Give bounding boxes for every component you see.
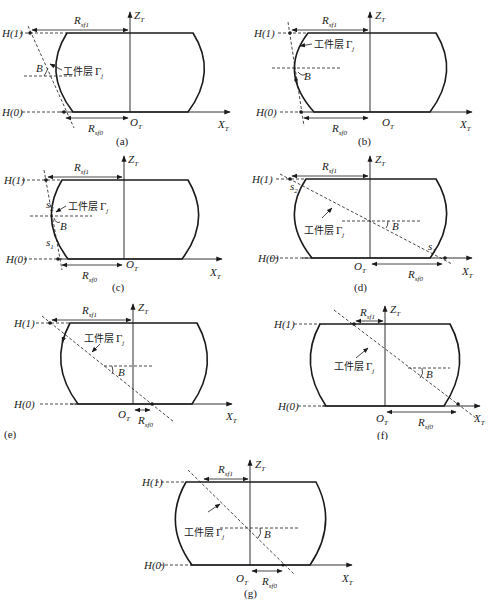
svg-text:Rsf0: Rsf0 bbox=[417, 416, 433, 431]
svg-text:Rsf1: Rsf1 bbox=[217, 463, 233, 478]
svg-text:OT: OT bbox=[126, 258, 139, 273]
svg-text:H(0): H(0) bbox=[13, 398, 35, 411]
svg-text:XT: XT bbox=[217, 118, 230, 133]
svg-text:XT: XT bbox=[461, 265, 474, 280]
diagram-panel-g: H(1) H(0) Rsf1 Rsf0 ZT XT OT B 工件层Γj (g) bbox=[120, 440, 380, 600]
svg-text:H(1): H(1) bbox=[1, 27, 23, 40]
svg-text:Rsf1: Rsf1 bbox=[73, 161, 89, 176]
svg-text:B: B bbox=[264, 528, 271, 540]
svg-text:ZT: ZT bbox=[138, 301, 149, 316]
diagram-panel-d: H(1) H(0) Rsf1 Rsf0 ZT XT OT B s2 s1 工件层… bbox=[242, 146, 492, 294]
svg-text:Rsf0: Rsf0 bbox=[137, 414, 153, 429]
diagram-panel-b: H(1) H(0) Rsf1 Rsf0 ZT XT OT B 工件层Γj (b) bbox=[242, 0, 492, 148]
svg-text:Rsf1: Rsf1 bbox=[321, 160, 337, 175]
svg-text:ZT: ZT bbox=[128, 153, 139, 168]
svg-text:Rsf0: Rsf0 bbox=[331, 122, 347, 137]
svg-text:ZT: ZT bbox=[375, 153, 386, 168]
svg-text:H(0): H(0) bbox=[257, 252, 279, 265]
svg-text:H(0): H(0) bbox=[5, 253, 27, 266]
svg-text:s1: s1 bbox=[428, 240, 436, 255]
svg-text:(g): (g) bbox=[244, 587, 257, 600]
svg-text:s1: s1 bbox=[46, 236, 54, 251]
svg-text:(e): (e) bbox=[4, 428, 17, 440]
svg-text:H(1): H(1) bbox=[253, 27, 275, 40]
svg-text:工件层Γj: 工件层Γj bbox=[184, 526, 224, 541]
svg-text:ZT: ZT bbox=[375, 9, 386, 24]
svg-text:OT: OT bbox=[354, 260, 367, 275]
svg-text:XT: XT bbox=[209, 266, 222, 281]
svg-text:B: B bbox=[304, 70, 311, 82]
workpiece-layer-line bbox=[188, 470, 294, 574]
svg-text:工件层Γj: 工件层Γj bbox=[334, 360, 374, 375]
svg-text:Rsf1: Rsf1 bbox=[321, 14, 337, 29]
svg-text:XT: XT bbox=[459, 118, 472, 133]
diagram-panel-a: H(1) H(0) Rsf1 Rsf0 ZT XT OT B 工件层Γj (a) bbox=[0, 0, 250, 148]
svg-text:OT: OT bbox=[118, 408, 131, 423]
diagram-panel-e: H(1) H(0) Rsf1 Rsf0 ZT XT OT B 工件层Γj (e) bbox=[0, 292, 250, 440]
svg-text:H(1): H(1) bbox=[3, 174, 25, 187]
svg-text:工件层Γj: 工件层Γj bbox=[304, 224, 344, 239]
svg-text:Rsf1: Rsf1 bbox=[73, 14, 89, 29]
svg-text:工件层Γj: 工件层Γj bbox=[84, 332, 124, 347]
svg-text:(f): (f) bbox=[377, 429, 388, 440]
svg-text:H(0): H(0) bbox=[1, 106, 23, 119]
svg-text:s2: s2 bbox=[290, 180, 298, 195]
svg-text:B: B bbox=[426, 368, 433, 380]
diagram-panel-f: H(1) H(0) Rsf1 Rsf0 ZT XT OT B 工件层Γj (f) bbox=[242, 292, 492, 440]
svg-text:H(0): H(0) bbox=[255, 106, 277, 119]
svg-text:B: B bbox=[36, 62, 43, 74]
svg-text:ZT: ZT bbox=[255, 458, 266, 473]
svg-text:H(1): H(1) bbox=[273, 318, 295, 331]
svg-text:H(1): H(1) bbox=[251, 173, 273, 186]
svg-text:Rsf0: Rsf0 bbox=[261, 575, 277, 590]
svg-text:OT: OT bbox=[382, 116, 395, 131]
svg-text:工件层Γj: 工件层Γj bbox=[314, 38, 354, 53]
svg-text:H(0): H(0) bbox=[277, 400, 299, 413]
diagram-panel-c: H(1) H(0) Rsf1 Rsf0 ZT XT OT B s2 s1 工件层… bbox=[0, 146, 250, 294]
svg-text:XT: XT bbox=[225, 410, 238, 425]
svg-text:H(1): H(1) bbox=[13, 317, 35, 330]
svg-text:ZT: ZT bbox=[390, 303, 401, 318]
svg-text:Rsf1: Rsf1 bbox=[359, 306, 375, 321]
svg-text:工件层Γj: 工件层Γj bbox=[68, 200, 108, 215]
svg-text:OT: OT bbox=[236, 572, 249, 587]
svg-text:OT: OT bbox=[130, 116, 143, 131]
svg-text:Rsf0: Rsf0 bbox=[87, 122, 103, 137]
svg-text:工件层Γj: 工件层Γj bbox=[63, 65, 103, 80]
svg-text:XT: XT bbox=[341, 572, 354, 587]
svg-text:Rsf0: Rsf0 bbox=[81, 269, 97, 284]
svg-text:B: B bbox=[60, 220, 67, 232]
svg-text:B: B bbox=[392, 220, 399, 232]
workpiece-layer-line bbox=[28, 26, 74, 128]
svg-text:OT: OT bbox=[376, 412, 389, 427]
svg-text:H(1): H(1) bbox=[141, 476, 163, 489]
svg-text:H(0): H(0) bbox=[143, 559, 165, 572]
svg-text:XT: XT bbox=[473, 412, 486, 427]
svg-text:Rsf0: Rsf0 bbox=[407, 268, 423, 283]
svg-text:Rsf1: Rsf1 bbox=[81, 304, 97, 319]
svg-text:ZT: ZT bbox=[134, 9, 145, 24]
svg-text:B: B bbox=[118, 366, 125, 378]
